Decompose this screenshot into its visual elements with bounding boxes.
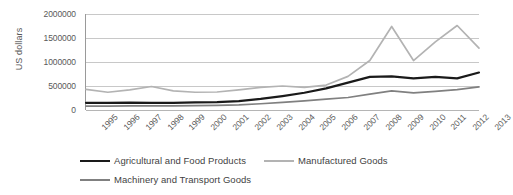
x-axis-tick-labels: 1995199619971998199920002001200220032004…	[85, 112, 478, 146]
x-axis-tick: 1997	[143, 112, 163, 132]
x-axis-tick: 1998	[165, 112, 185, 132]
x-axis-tick: 2007	[361, 112, 381, 132]
y-axis-tick: 1500000	[44, 33, 76, 43]
legend-item[interactable]: Manufactured Goods	[264, 155, 388, 166]
x-axis-tick: 1995	[99, 112, 119, 132]
legend-swatch-icon	[264, 160, 294, 162]
legend-label: Manufactured Goods	[298, 155, 388, 166]
y-axis-tick: 2000000	[44, 9, 76, 19]
x-axis-tick: 2009	[405, 112, 425, 132]
series-line-manufactured-goods	[86, 26, 479, 93]
x-axis-tick: 2000	[209, 112, 229, 132]
y-axis-tick: 1000000	[44, 57, 76, 67]
legend-swatch-icon	[80, 179, 110, 181]
legend-label: Agricultural and Food Products	[114, 155, 246, 166]
x-axis-tick: 2008	[383, 112, 403, 132]
x-axis-tick: 2011	[449, 112, 469, 132]
legend-swatch-icon	[80, 160, 110, 162]
gridline	[86, 110, 479, 111]
y-axis-tick: 500000	[48, 81, 76, 91]
x-axis-tick: 2004	[296, 112, 316, 132]
x-axis-tick: 2006	[340, 112, 360, 132]
legend-item[interactable]: Agricultural and Food Products	[80, 155, 246, 166]
x-axis-tick: 1999	[187, 112, 207, 132]
x-axis-tick: 2010	[427, 112, 447, 132]
x-axis-tick: 2013	[492, 112, 512, 132]
x-axis-tick: 2001	[230, 112, 250, 132]
x-axis-tick: 2003	[274, 112, 294, 132]
y-axis-tick-labels: 0500000100000015000002000000	[22, 0, 80, 120]
legend-item[interactable]: Machinery and Transport Goods	[80, 174, 251, 185]
chart-legend: Agricultural and Food ProductsMachinery …	[0, 152, 495, 195]
series-lines	[86, 14, 479, 110]
x-axis-tick: 2005	[318, 112, 338, 132]
legend-label: Machinery and Transport Goods	[114, 174, 251, 185]
x-axis-tick: 2002	[252, 112, 272, 132]
x-axis-tick: 2012	[471, 112, 491, 132]
plot-area	[85, 14, 479, 110]
y-axis-tick: 0	[71, 105, 76, 115]
x-axis-tick: 1996	[121, 112, 141, 132]
